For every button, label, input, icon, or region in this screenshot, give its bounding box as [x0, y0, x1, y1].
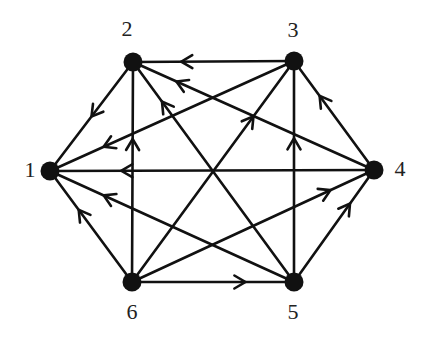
edge-5-to-4 [294, 170, 374, 282]
edge-3-to-2 [133, 61, 294, 62]
node-3 [285, 52, 304, 71]
directed-graph-diagram: 123456 [0, 0, 435, 343]
node-label-2: 2 [122, 16, 133, 41]
node-label-4: 4 [395, 156, 406, 181]
edge-6-to-1 [50, 171, 132, 282]
node-4 [365, 161, 384, 180]
node-label-6: 6 [127, 299, 138, 324]
node-6 [123, 273, 142, 292]
node-1 [41, 162, 60, 181]
edge-4-to-3 [294, 61, 374, 170]
node-label-3: 3 [288, 17, 299, 42]
edges-layer [50, 61, 374, 282]
node-5 [285, 273, 304, 292]
node-label-5: 5 [288, 299, 299, 324]
node-2 [124, 53, 143, 72]
node-label-1: 1 [25, 157, 36, 182]
edge-6-to-2 [132, 62, 133, 282]
